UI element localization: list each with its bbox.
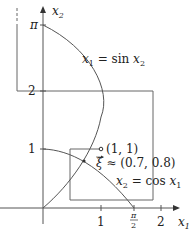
svg-text:π: π bbox=[130, 211, 137, 220]
diagram-canvas: 1 π 2 2 1 2 π x1 x2 x1 = sin x2 x2 = cos… bbox=[0, 0, 196, 231]
y-tick-label-pi: π bbox=[29, 18, 39, 32]
start-point-label: (1, 1) bbox=[106, 142, 138, 156]
y-tick-label-1: 1 bbox=[28, 142, 36, 156]
fixed-point-marker bbox=[82, 159, 85, 162]
y-axis-arrow-icon bbox=[40, 6, 46, 13]
cos-curve-label: x2 = cos x1 bbox=[116, 174, 181, 190]
start-point-marker bbox=[99, 147, 103, 151]
fixed-point-label: ξ ≈ (0.7, 0.8) bbox=[96, 156, 175, 170]
iteration-path bbox=[17, 8, 153, 200]
x-axis-label: x1 bbox=[178, 215, 190, 231]
sin-curve-label: x1 = sin x2 bbox=[82, 52, 145, 68]
y-axis-label: x2 bbox=[52, 4, 64, 20]
x-tick-label-pi-half: π 2 bbox=[130, 211, 138, 230]
svg-text:2: 2 bbox=[131, 221, 136, 230]
x-tick-label-1: 1 bbox=[97, 215, 105, 229]
y-tick-label-2: 2 bbox=[28, 84, 36, 98]
x-tick-label-2: 2 bbox=[157, 215, 165, 229]
x-axis-arrow-icon bbox=[173, 205, 180, 211]
axes bbox=[0, 10, 176, 224]
